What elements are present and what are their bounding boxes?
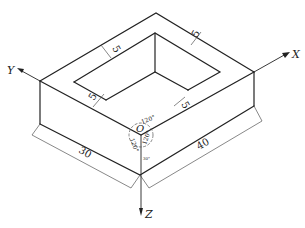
z-axis-arrow-icon — [139, 208, 143, 216]
x-axis-arrow-icon — [282, 52, 290, 58]
y-axis-line — [20, 70, 40, 81]
angle-left-label: 120° — [129, 137, 141, 153]
isometric-drawing: 5 5 5 5 30 40 Y X Z O — [0, 0, 305, 228]
dim-length-30: 30 — [77, 144, 94, 160]
dim-wall-bottom-right: 5 — [179, 100, 192, 111]
angle-top-label: 120° — [140, 113, 156, 125]
z-axis-label: Z — [144, 208, 153, 221]
dim-wall-top-right: 5 — [189, 28, 202, 39]
block-inner-hole — [74, 33, 220, 100]
dimension-30: 30 — [32, 124, 140, 188]
x-axis-label: X — [291, 48, 301, 61]
dim-length-40: 40 — [195, 136, 212, 152]
y-axis-arrow-icon — [17, 68, 24, 73]
dimension-40: 40 — [140, 106, 262, 188]
x-axis-line — [254, 54, 286, 72]
origin-marker: O 120° 120° 120° 30° — [129, 113, 156, 161]
origin-tick-mark: 30° — [143, 156, 150, 161]
y-axis-label: Y — [7, 64, 16, 77]
